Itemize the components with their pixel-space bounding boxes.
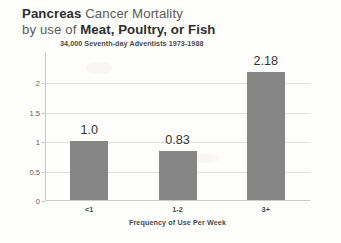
chart-title-line-2: by use of Meat, Poultry, or Fish — [22, 22, 322, 38]
y-tick-mark — [42, 142, 45, 143]
chart-subtitle: 34,000 Seventh-day Adventists 1973-1988 — [60, 39, 322, 49]
chart-title-rest-1: Cancer Mortality — [81, 6, 182, 21]
bar-chart-figure: Pancreas Cancer Mortality by use of Meat… — [0, 0, 341, 243]
chart-title-emphasis-1: Pancreas — [22, 6, 81, 21]
y-tick-label: 1.5 — [29, 108, 40, 117]
y-tick-label: 0 — [36, 197, 40, 206]
x-tick-label: 3+ — [262, 205, 270, 214]
x-tick-label: 1-2 — [172, 205, 183, 214]
chart-title-lead-2: by use of — [22, 22, 80, 37]
y-tick-mark — [42, 113, 45, 114]
y-tick-label: 1 — [36, 138, 40, 147]
bar-value-label: 1.0 — [80, 123, 98, 137]
y-tick-mark — [42, 83, 45, 84]
y-tick-mark — [42, 172, 45, 173]
bar — [159, 151, 197, 200]
y-tick-mark — [42, 201, 45, 202]
x-axis-title: Frequency of Use Per Week — [45, 218, 310, 227]
bar-value-label: 0.83 — [165, 133, 190, 147]
y-tick-label: 2 — [36, 79, 40, 88]
bar — [247, 72, 285, 200]
chart-title-emphasis-2: Meat, Poultry, or Fish — [80, 22, 215, 37]
chart-title-line-1: Pancreas Cancer Mortality — [22, 6, 322, 22]
y-axis-line — [45, 52, 46, 201]
x-tick-label: <1 — [85, 205, 93, 214]
chart-title-block: Pancreas Cancer Mortality by use of Meat… — [22, 6, 322, 49]
x-axis-line — [45, 200, 310, 201]
bar — [70, 141, 108, 200]
plot-area: 00.511.52 1.00.832.18 <11-23+ — [45, 54, 310, 201]
bar-value-label: 2.18 — [254, 54, 279, 68]
y-tick-label: 0.5 — [29, 167, 40, 176]
